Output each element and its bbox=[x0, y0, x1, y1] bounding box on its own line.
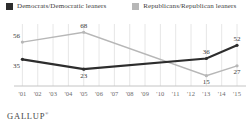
democrats-swatch-icon bbox=[6, 3, 13, 10]
x-tick-label: '08 bbox=[122, 90, 138, 97]
value-label: 15 bbox=[199, 78, 213, 86]
legend-item-republicans: Republicans/Republican leaners bbox=[132, 2, 236, 10]
legend: Democrats/Democratic leaners Republicans… bbox=[6, 2, 236, 10]
legend-item-democrats: Democrats/Democratic leaners bbox=[6, 2, 106, 10]
x-tick-label: '12 bbox=[183, 90, 199, 97]
data-point bbox=[82, 31, 85, 34]
x-tick-label: '02 bbox=[30, 90, 46, 97]
plot-area bbox=[0, 0, 252, 126]
x-tick-label: '03 bbox=[45, 90, 61, 97]
value-label: 23 bbox=[77, 72, 91, 80]
value-label: 36 bbox=[199, 48, 213, 56]
x-tick-label: '05 bbox=[76, 90, 92, 97]
value-label: 35 bbox=[9, 62, 23, 70]
x-tick-label: '13 bbox=[198, 90, 214, 97]
value-label: 56 bbox=[9, 32, 23, 40]
x-tick-label: '14 bbox=[214, 90, 230, 97]
value-label: 52 bbox=[230, 35, 244, 43]
data-point bbox=[205, 74, 208, 77]
x-tick-label: '01 bbox=[14, 90, 30, 97]
data-point bbox=[21, 58, 24, 61]
gallup-logo: GALLUP® bbox=[7, 111, 48, 121]
data-point bbox=[82, 68, 85, 71]
registered-trademark-icon: ® bbox=[45, 111, 48, 116]
party-trend-chart: Democrats/Democratic leaners Republicans… bbox=[0, 0, 252, 126]
x-tick-label: '09 bbox=[137, 90, 153, 97]
data-point bbox=[235, 64, 238, 67]
x-tick-label: '10 bbox=[152, 90, 168, 97]
democrats-legend-label: Democrats/Democratic leaners bbox=[17, 2, 106, 10]
republicans-legend-label: Republicans/Republican leaners bbox=[143, 2, 236, 10]
republicans-swatch-icon bbox=[132, 3, 139, 10]
x-tick-label: '04 bbox=[60, 90, 76, 97]
x-tick-label: '06 bbox=[91, 90, 107, 97]
gallup-brand-text: GALLUP bbox=[7, 111, 45, 121]
data-point bbox=[21, 40, 24, 43]
data-point bbox=[205, 57, 208, 60]
value-label: 27 bbox=[230, 68, 244, 76]
x-tick-label: '15 bbox=[229, 90, 245, 97]
x-tick-label: '11 bbox=[168, 90, 184, 97]
value-label: 68 bbox=[77, 22, 91, 30]
x-tick-label: '07 bbox=[106, 90, 122, 97]
data-point bbox=[235, 44, 238, 47]
